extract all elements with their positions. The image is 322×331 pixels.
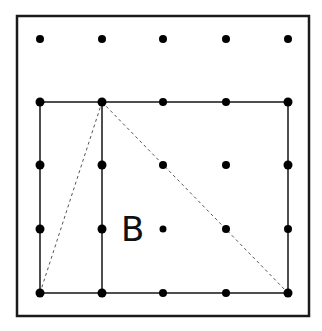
geoboard-diagram: [0, 0, 322, 331]
rectangle-shape: [40, 102, 288, 293]
dashed-line-right: [102, 102, 288, 293]
region-label-b: B: [121, 212, 144, 246]
dashed-line-left: [40, 102, 102, 293]
